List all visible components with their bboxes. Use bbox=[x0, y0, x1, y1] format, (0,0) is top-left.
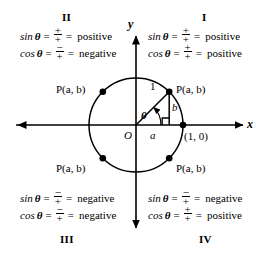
equals-sign-2: = bbox=[66, 192, 72, 204]
quadrant-3-sin-row: sin θ = − + = negative bbox=[20, 189, 116, 206]
equals-sign: = bbox=[173, 209, 179, 221]
quadrant-3-cos-row: cos θ = − + = negative bbox=[20, 206, 116, 223]
sign-fraction: + + bbox=[184, 206, 192, 221]
equals-sign-2: = bbox=[68, 47, 74, 59]
theta-symbol: θ bbox=[163, 192, 169, 204]
theta-symbol: θ bbox=[35, 30, 41, 42]
equals-sign-2: = bbox=[194, 192, 200, 204]
point-quadrant-4 bbox=[166, 155, 173, 162]
point-quadrant-1 bbox=[166, 89, 173, 96]
equals-sign-2: = bbox=[194, 30, 200, 42]
leg-a-label: a bbox=[150, 130, 156, 141]
equals-sign: = bbox=[172, 30, 178, 42]
origin-label: O bbox=[124, 130, 132, 141]
equals-sign: = bbox=[44, 192, 50, 204]
quadrant-2-sin-row: sin θ = + + = positive bbox=[20, 27, 116, 44]
equals-sign: = bbox=[173, 47, 179, 59]
theta-symbol: θ bbox=[37, 209, 43, 221]
sign-word: positive bbox=[205, 30, 240, 42]
quadrant-1-formulas: sin θ = + + = positive cos θ = + + = pos… bbox=[148, 27, 242, 61]
sign-word: positive bbox=[77, 30, 112, 42]
quadrant-4-sin-row: sin θ = − + = negative bbox=[148, 189, 242, 206]
quadrant-numeral-3: III bbox=[60, 234, 74, 245]
quadrant-4-cos-row: cos θ = + + = positive bbox=[148, 206, 242, 223]
fraction-denominator: + bbox=[56, 53, 64, 59]
equals-sign: = bbox=[45, 209, 51, 221]
equals-sign-2: = bbox=[66, 30, 72, 42]
quadrant-3-formulas: sin θ = − + = negative cos θ = − + = neg… bbox=[20, 189, 116, 223]
sign-fraction: − + bbox=[56, 206, 64, 221]
cos-function-name: cos bbox=[20, 47, 35, 59]
quadrant-2-formulas: sin θ = + + = positive cos θ = − + = neg… bbox=[20, 27, 116, 61]
cos-function-name: cos bbox=[20, 209, 35, 221]
equals-sign-2: = bbox=[68, 209, 74, 221]
quadrant-numeral-1: I bbox=[202, 12, 207, 23]
fraction-denominator: + bbox=[56, 215, 64, 221]
fraction-denominator: + bbox=[184, 215, 192, 221]
equals-sign: = bbox=[44, 30, 50, 42]
quadrant-numeral-4: IV bbox=[199, 234, 212, 245]
sin-function-name: sin bbox=[148, 192, 161, 204]
theta-angle-arc bbox=[154, 107, 161, 125]
sign-fraction: − + bbox=[54, 189, 62, 204]
radius-label: 1 bbox=[150, 81, 156, 92]
sign-fraction: − + bbox=[56, 44, 64, 59]
point-label-quadrant-2: P(a, b) bbox=[56, 84, 85, 95]
sin-function-name: sin bbox=[20, 192, 33, 204]
equals-sign-2: = bbox=[196, 47, 202, 59]
cos-function-name: cos bbox=[148, 47, 163, 59]
sin-function-name: sin bbox=[20, 30, 33, 42]
theta-symbol: θ bbox=[165, 209, 171, 221]
x-axis-label: x bbox=[247, 118, 253, 130]
sign-fraction: + + bbox=[182, 27, 190, 42]
theta-symbol: θ bbox=[165, 47, 171, 59]
sin-function-name: sin bbox=[148, 30, 161, 42]
leg-b-label: b bbox=[172, 102, 178, 113]
fraction-denominator: + bbox=[184, 53, 192, 59]
theta-label: θ bbox=[141, 110, 147, 121]
equals-sign: = bbox=[172, 192, 178, 204]
theta-symbol: θ bbox=[37, 47, 43, 59]
theta-symbol: θ bbox=[35, 192, 41, 204]
sign-word: negative bbox=[205, 192, 242, 204]
theta-symbol: θ bbox=[163, 30, 169, 42]
point-one-zero-label: (1, 0) bbox=[184, 131, 208, 142]
sign-word: negative bbox=[79, 47, 116, 59]
sign-fraction: + + bbox=[184, 44, 192, 59]
point-one-zero bbox=[180, 122, 187, 129]
y-axis-label: y bbox=[128, 18, 133, 30]
sign-word: positive bbox=[207, 209, 242, 221]
unit-circle-quadrant-sign-diagram: II I III IV y x O 1 θ b a (1, 0) P(a, b)… bbox=[0, 0, 272, 257]
quadrant-1-cos-row: cos θ = + + = positive bbox=[148, 44, 242, 61]
equals-sign-2: = bbox=[196, 209, 202, 221]
point-quadrant-2 bbox=[100, 89, 107, 96]
point-label-quadrant-1: P(a, b) bbox=[176, 84, 205, 95]
equals-sign: = bbox=[45, 47, 51, 59]
quadrant-2-cos-row: cos θ = − + = negative bbox=[20, 44, 116, 61]
point-label-quadrant-3: P(a, b) bbox=[56, 163, 85, 174]
quadrant-1-sin-row: sin θ = + + = positive bbox=[148, 27, 242, 44]
sign-fraction: + + bbox=[54, 27, 62, 42]
sign-word: negative bbox=[77, 192, 114, 204]
quadrant-4-formulas: sin θ = − + = negative cos θ = + + = pos… bbox=[148, 189, 242, 223]
sign-word: positive bbox=[207, 47, 242, 59]
sign-fraction: − + bbox=[182, 189, 190, 204]
point-label-quadrant-4: P(a, b) bbox=[176, 163, 205, 174]
sign-word: negative bbox=[79, 209, 116, 221]
point-quadrant-3 bbox=[100, 155, 107, 162]
right-angle-marker bbox=[162, 118, 169, 125]
quadrant-numeral-2: II bbox=[62, 12, 71, 23]
cos-function-name: cos bbox=[148, 209, 163, 221]
